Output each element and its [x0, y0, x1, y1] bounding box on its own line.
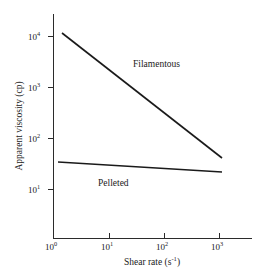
y-tick-exponent: 1 — [37, 183, 40, 190]
x-tick-exponent: 3 — [220, 240, 223, 247]
y-axis-title: Apparent viscosity (cp) — [14, 81, 25, 170]
y-tick-label-10e3: 103 — [28, 81, 40, 93]
chart-figure: 104 103 102 101 100 101 102 103 Apparent… — [0, 0, 259, 280]
x-tick-exponent: 2 — [165, 240, 168, 247]
y-tick-exponent: 3 — [37, 81, 40, 88]
x-tick-label-10e2: 102 — [156, 240, 168, 252]
series-label-filamentous: Filamentous — [133, 59, 180, 69]
series-line-filamentous — [62, 33, 222, 158]
x-axis-title-main: Shear rate (s — [124, 257, 172, 268]
y-tick-label-10e1: 101 — [28, 183, 40, 195]
x-axis-title: Shear rate (s-1) — [124, 255, 180, 268]
y-tick-label-10e2: 102 — [28, 132, 40, 144]
chart-plot-area: 104 103 102 101 100 101 102 103 Apparent… — [0, 0, 259, 280]
x-tick-label-10e0: 100 — [45, 240, 57, 252]
x-tick-exponent: 1 — [110, 240, 113, 247]
x-axis-title-suffix: ) — [177, 257, 180, 268]
x-tick-label-10e1: 101 — [101, 240, 113, 252]
series-line-pelleted — [58, 162, 222, 172]
series-label-pelleted: Pelleted — [98, 178, 129, 188]
x-tick-exponent: 0 — [54, 240, 57, 247]
y-tick-exponent: 2 — [37, 132, 40, 139]
x-tick-label-10e3: 103 — [211, 240, 223, 252]
y-tick-label-10e4: 104 — [28, 30, 41, 42]
y-tick-exponent: 4 — [37, 30, 41, 37]
